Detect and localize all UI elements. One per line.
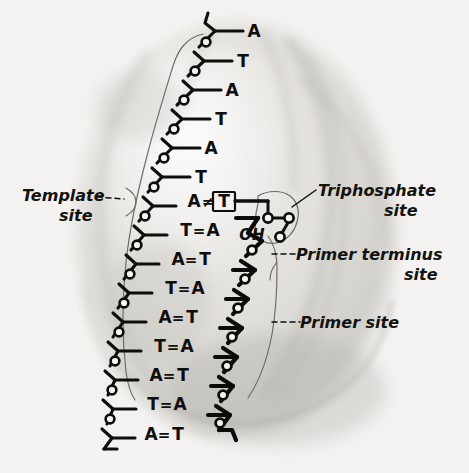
pair-4-bond: = [172, 309, 185, 327]
base-pair-row-1: T = A [180, 220, 220, 240]
pair-7-primer-base: A [173, 394, 187, 414]
pair-8-template-base: A [144, 424, 158, 444]
pair-5-template-base: T [154, 336, 166, 356]
base-pair-row-4: A = T [158, 307, 198, 327]
polymerase-active-site-figure: A T A T A T A ≠ T T = A A = T T = [0, 0, 469, 473]
triphosphate-site-label-line2: site [384, 201, 418, 220]
pair-1-primer-base: A [206, 220, 220, 240]
base-pair-row-8: A = T [144, 424, 184, 444]
pair-8-primer-base: T [172, 424, 184, 444]
pair-4-primer-base: T [186, 307, 198, 327]
pair-3-bond: = [178, 280, 191, 298]
base-pair-row-2: A = T [171, 249, 211, 269]
pair-7-template-base: T [147, 394, 159, 414]
pair-8-bond: = [158, 426, 171, 444]
pair-2-primer-base: T [199, 249, 211, 269]
pair-6-template-base: A [149, 365, 163, 385]
pair-1-template-base: T [180, 220, 192, 240]
overhang-base-5: T [195, 167, 207, 187]
base-pair-row-3: T = A [165, 278, 205, 298]
primer-terminus-hydroxyl-label: OH [239, 226, 265, 244]
phosphate-beta [284, 213, 293, 222]
pair-6-bond: = [163, 367, 176, 385]
primer-terminus-label-line2: site [404, 265, 438, 284]
pair-0-bond: ≠ [202, 193, 215, 211]
phosphate-alpha [263, 213, 272, 222]
base-pair-row-0: A ≠ T [187, 191, 230, 211]
overhang-base-1: T [237, 51, 249, 71]
template-site-label-line2: site [59, 206, 93, 225]
overhang-base-3: T [215, 109, 227, 129]
base-pair-row-7: T = A [147, 394, 187, 414]
pair-6-primer-base: T [177, 365, 189, 385]
pair-0-template-base: A [187, 191, 201, 211]
primer-terminus-label-line1: Primer terminus [296, 245, 442, 264]
pair-3-template-base: T [165, 278, 177, 298]
diagram-canvas: A T A T A T A ≠ T T = A A = T T = [0, 0, 469, 473]
primer-site-label-line1: Primer site [300, 313, 399, 332]
base-pair-row-6: A = T [149, 365, 189, 385]
pair-0-primer-base: T [218, 191, 230, 211]
overhang-base-4: A [204, 138, 218, 158]
pair-3-primer-base: A [191, 278, 205, 298]
base-pair-row-5: T = A [154, 336, 194, 356]
pair-7-bond: = [160, 396, 173, 414]
template-site-label-line1: Template [22, 186, 105, 205]
pair-5-bond: = [167, 338, 180, 356]
enzyme-shadow-bottom [166, 334, 386, 446]
pair-5-primer-base: A [180, 336, 194, 356]
overhang-base-0: A [247, 21, 261, 41]
overhang-base-2: A [225, 80, 239, 100]
pair-4-template-base: A [158, 307, 172, 327]
pair-2-template-base: A [171, 249, 185, 269]
pair-1-bond: = [193, 222, 206, 240]
label-primer-site: Primer site [300, 313, 399, 332]
triphosphate-site-label-line1: Triphosphate [318, 181, 436, 200]
phosphate-gamma [275, 232, 284, 241]
pair-2-bond: = [185, 251, 198, 269]
